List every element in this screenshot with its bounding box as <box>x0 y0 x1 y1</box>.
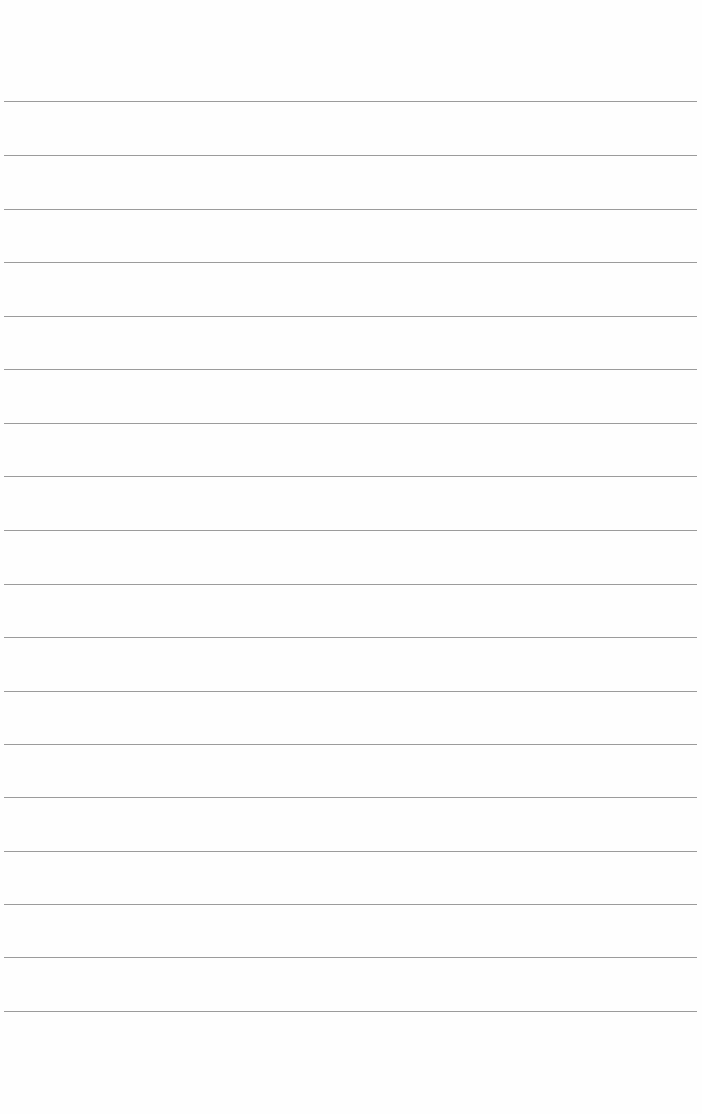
ruled-line <box>4 637 697 638</box>
ruled-line <box>4 316 697 317</box>
ruled-line <box>4 262 697 263</box>
ruled-paper-sheet <box>0 0 702 1114</box>
ruled-line <box>4 209 697 210</box>
ruled-line <box>4 369 697 370</box>
ruled-line <box>4 476 697 477</box>
ruled-line <box>4 744 697 745</box>
ruled-line <box>4 851 697 852</box>
ruled-line <box>4 1011 697 1012</box>
ruled-line <box>4 904 697 905</box>
ruled-line <box>4 957 697 958</box>
ruled-line <box>4 155 697 156</box>
ruled-line <box>4 530 697 531</box>
ruled-line <box>4 797 697 798</box>
ruled-line <box>4 691 697 692</box>
ruled-line <box>4 584 697 585</box>
ruled-line <box>4 423 697 424</box>
ruled-line <box>4 101 697 102</box>
